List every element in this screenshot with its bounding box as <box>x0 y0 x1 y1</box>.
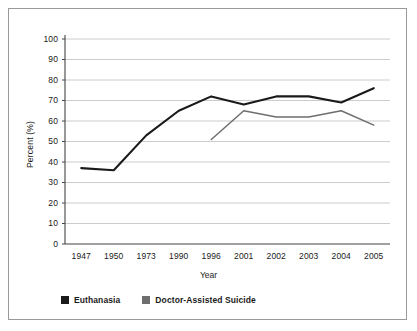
legend-item-doctor-assisted-suicide: Doctor-Assisted Suicide <box>142 295 256 305</box>
y-tick-label: 20 <box>34 198 58 208</box>
chart-frame: 0102030405060708090100 19471950197319901… <box>8 8 407 320</box>
y-tick-label: 100 <box>34 34 58 44</box>
plot-area: 0102030405060708090100 19471950197319901… <box>9 9 406 319</box>
chart-legend: Euthanasia Doctor-Assisted Suicide <box>61 295 256 305</box>
y-tick-label: 70 <box>34 95 58 105</box>
y-tick-label: 0 <box>34 239 58 249</box>
legend-item-euthanasia: Euthanasia <box>61 295 120 305</box>
legend-swatch-icon <box>142 296 150 304</box>
chart-figure: 0102030405060708090100 19471950197319901… <box>0 0 417 331</box>
y-tick-label: 90 <box>34 54 58 64</box>
y-tick-label: 80 <box>34 75 58 85</box>
y-tick-label: 50 <box>34 136 58 146</box>
y-tick-label: 30 <box>34 177 58 187</box>
x-axis-title: Year <box>9 270 408 280</box>
y-tick-label: 10 <box>34 218 58 228</box>
legend-label: Doctor-Assisted Suicide <box>155 295 256 305</box>
x-tick-label: 2005 <box>354 251 394 261</box>
y-tick-label: 60 <box>34 116 58 126</box>
legend-label: Euthanasia <box>74 295 120 305</box>
y-axis-title: Percent (%) <box>25 120 35 167</box>
y-tick-label: 40 <box>34 157 58 167</box>
legend-swatch-icon <box>61 296 69 304</box>
